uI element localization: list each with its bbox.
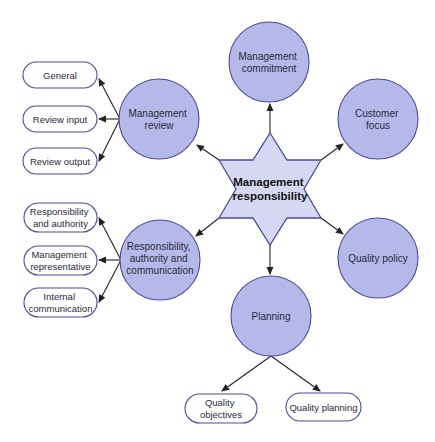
management-review-line-2: review	[145, 120, 175, 131]
management-representative-line-1: Management	[31, 249, 87, 260]
node-planning: Planning	[231, 276, 311, 356]
management-representative-line-2: representative	[30, 261, 90, 272]
node-customer-focus: Customer focus	[338, 79, 418, 159]
svg-text:Planning: Planning	[252, 311, 291, 322]
svg-text:Quality planning: Quality planning	[289, 402, 357, 413]
svg-text:General: General	[43, 70, 77, 81]
arrow-to-customer-focus	[321, 144, 343, 160]
review-output-label: Review output	[30, 156, 91, 167]
pill-review-input: Review input	[23, 106, 97, 132]
management-responsibility-diagram: Management responsibility Management com…	[0, 0, 435, 442]
responsibility-line-2: authority and	[130, 253, 188, 264]
management-commitment-line-1: Management	[238, 51, 297, 62]
star-label-line-1: Management	[233, 176, 303, 188]
pill-quality-planning: Quality planning	[286, 393, 361, 421]
pill-management-representative: Management representative	[24, 246, 97, 275]
svg-text:Management representat: Management representative	[30, 249, 90, 272]
pill-general: General	[23, 62, 97, 88]
pill-responsibility-and-authority: Responsibility and authority	[24, 203, 97, 232]
internal-communication-line-1: Internal	[43, 291, 75, 302]
arrow-to-general	[99, 79, 120, 119]
node-management-commitment: Management commitment	[229, 22, 309, 102]
arrow-to-quality-policy	[321, 218, 343, 234]
svg-text:Responsibility and aut: Responsibility and authority	[30, 206, 91, 229]
pill-review-output: Review output	[23, 148, 97, 174]
responsibility-and-authority-line-1: Responsibility	[30, 206, 89, 217]
star-label-line-2: responsibility	[233, 190, 308, 202]
node-quality-policy: Quality policy	[338, 218, 418, 298]
management-commitment-line-2: commitment	[242, 63, 297, 74]
star-shape	[219, 133, 321, 245]
pill-internal-communication: Internal communication	[24, 288, 97, 317]
node-management-review: Management review	[119, 79, 199, 159]
general-label: General	[43, 70, 77, 81]
central-star-node: Management responsibility	[219, 133, 321, 245]
customer-focus-line-2: focus	[366, 120, 390, 131]
svg-text:Quality objectives: Quality objectives	[200, 397, 242, 420]
svg-text:Responsibility, author: Responsibility, authority and communicat…	[126, 241, 193, 276]
customer-focus-line-1: Customer	[355, 108, 399, 119]
quality-policy-line-1: Quality policy	[348, 253, 407, 264]
node-responsibility-authority-communication: Responsibility, authority and communicat…	[120, 220, 200, 300]
pill-quality-objectives: Quality objectives	[185, 394, 257, 423]
responsibility-and-authority-line-2: and authority	[33, 218, 88, 229]
arrow-to-responsibility	[196, 218, 219, 236]
svg-text:Management commitment: Management commitment	[238, 51, 299, 74]
review-input-label: Review input	[33, 114, 88, 125]
internal-communication-line-2: communication	[29, 303, 93, 314]
arrow-to-quality-planning	[271, 356, 320, 391]
arrow-to-management-review	[197, 145, 219, 160]
planning-line-1: Planning	[252, 311, 291, 322]
management-review-line-1: Management	[128, 108, 187, 119]
svg-text:Quality policy: Quality policy	[348, 253, 407, 264]
arrow-to-internal-communication	[99, 260, 121, 302]
responsibility-line-3: communication	[126, 265, 193, 276]
svg-text:Review output: Review output	[30, 156, 91, 167]
arrow-to-responsibility-and-authority	[99, 218, 121, 260]
svg-text:Review input: Review input	[33, 114, 88, 125]
quality-objectives-line-2: objectives	[200, 409, 242, 420]
responsibility-line-1: Responsibility,	[127, 241, 191, 252]
quality-objectives-line-1: Quality	[205, 397, 235, 408]
arrow-to-review-output	[99, 119, 120, 161]
arrow-to-quality-objectives	[222, 356, 271, 391]
quality-planning-label: Quality planning	[289, 402, 357, 413]
